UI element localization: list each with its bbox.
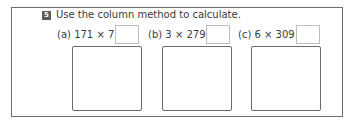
instruction-text: Use the column method to calculate. [56,9,241,21]
question-number-badge: 5 [42,11,51,20]
problem-c-letter: (c) [238,29,251,40]
problem-a-answer-box[interactable] [115,25,139,44]
problem-c-work-box[interactable] [251,46,321,111]
problem-a-work-box[interactable] [72,46,142,111]
exercise-instruction: 5 Use the column method to calculate. [42,9,241,21]
problem-b-letter: (b) [148,29,162,40]
problem-c-answer-box[interactable] [296,25,320,44]
problem-a-letter: (a) [57,29,71,40]
problem-b-answer-box[interactable] [206,25,230,44]
problem-b-work-box[interactable] [162,46,232,111]
